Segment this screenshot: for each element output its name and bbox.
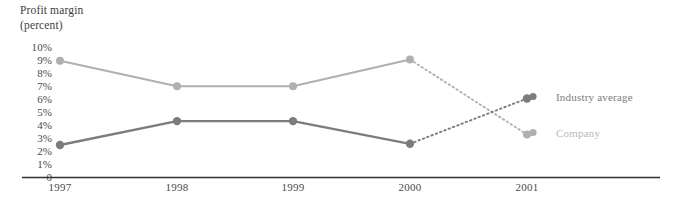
- x-axis-tick-2001: 2001: [497, 182, 557, 193]
- x-axis-tick-1998: 1998: [147, 182, 207, 193]
- series-line-company-forecast: [410, 99, 527, 144]
- legend-marker-company: [529, 129, 536, 136]
- data-point-company-1999: [289, 117, 297, 125]
- x-axis-tick-1997: 1997: [30, 182, 90, 193]
- data-point-industry-average-1999: [289, 82, 297, 90]
- x-axis-tick-1999: 1999: [263, 182, 323, 193]
- legend-label-company: Company: [556, 128, 600, 139]
- series-line-industry-average: [60, 60, 410, 87]
- x-axis-tick-2000: 2000: [380, 182, 440, 193]
- legend-label-industry-average: Industry average: [556, 92, 633, 103]
- data-point-industry-average-1998: [173, 82, 181, 90]
- data-point-company-2000: [406, 140, 414, 148]
- data-point-industry-average-2000: [406, 56, 414, 64]
- series-line-company: [60, 121, 410, 145]
- data-point-company-1998: [173, 117, 181, 125]
- legend-marker-industry-average: [529, 93, 536, 100]
- profit-margin-chart: Profit margin(percent) 10% 9% 8% 7% 6% 5…: [0, 0, 674, 211]
- data-point-company-1997: [56, 141, 64, 149]
- series-line-industry-average-forecast: [410, 60, 527, 135]
- plot-area: [0, 0, 674, 211]
- data-point-industry-average-1997: [56, 57, 64, 65]
